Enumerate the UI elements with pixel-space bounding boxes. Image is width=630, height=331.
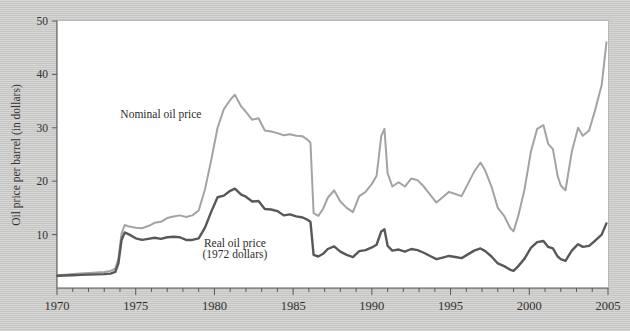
- y-tick-label: 40: [37, 68, 49, 80]
- nominal-oil-price-label: Nominal oil price: [120, 108, 201, 121]
- x-tick-label: 1995: [438, 299, 463, 313]
- oil-price-figure: 1020304050 19701975198019851990199520002…: [0, 0, 630, 331]
- y-tick-label: 50: [37, 15, 49, 27]
- y-tick-label: 20: [37, 175, 49, 187]
- series-group: [57, 42, 606, 275]
- x-tick-label: 1990: [359, 299, 384, 313]
- annotation-group: Nominal oil priceReal oil price(1972 dol…: [120, 108, 267, 261]
- x-tick-label: 2005: [596, 299, 621, 313]
- y-axis-label: Oil price per barrel (in dollars): [10, 84, 23, 226]
- series-line-real-oil-price-1972-dollars: [57, 189, 606, 276]
- y-axis-ticks: 1020304050: [37, 15, 58, 241]
- y-tick-label: 30: [37, 122, 49, 134]
- x-tick-label: 1980: [202, 299, 227, 313]
- real-oil-price-sublabel: (1972 dollars): [202, 248, 267, 261]
- oil-price-line-chart: 1020304050 19701975198019851990199520002…: [0, 0, 630, 331]
- x-tick-label: 1985: [281, 299, 306, 313]
- x-tick-label: 1975: [123, 299, 148, 313]
- y-tick-label: 10: [37, 229, 49, 241]
- x-axis-ticks: 19701975198019851990199520002005: [45, 288, 621, 313]
- x-tick-label: 2000: [517, 299, 542, 313]
- x-tick-label: 1970: [45, 299, 70, 313]
